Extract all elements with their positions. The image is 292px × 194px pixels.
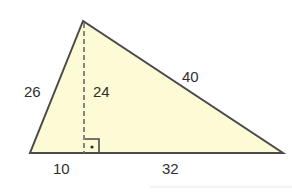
label-altitude: 24	[93, 83, 110, 100]
right-angle-dot	[90, 145, 93, 148]
triangle	[30, 21, 283, 153]
label-left-side: 26	[24, 83, 41, 100]
triangle-diagram: 26 24 40 10 32	[0, 0, 292, 194]
label-base-left: 10	[53, 160, 70, 177]
label-base-right: 32	[162, 160, 179, 177]
label-right-side: 40	[182, 68, 199, 85]
bottom-border-strip	[150, 186, 292, 188]
